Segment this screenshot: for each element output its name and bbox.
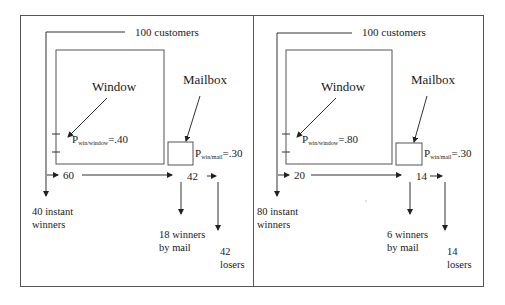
instant-winners-right: 80 instantwinners: [257, 205, 298, 231]
losers-right: 14losers: [447, 245, 472, 271]
customers-label-right: 100 customers: [362, 27, 426, 38]
to-mailbox-count-right: 20: [294, 170, 305, 181]
p-window-left: Pwin/window=.40: [72, 134, 128, 146]
window-label-right: Window: [321, 80, 365, 93]
window-label-left: Window: [92, 80, 136, 93]
p-window-right: Pwin/window=.80: [302, 134, 358, 146]
losers-left: 42losers: [220, 245, 245, 271]
mailbox-label-right: Mailbox: [411, 73, 455, 86]
instant-winners-left: 40 instantwinners: [32, 205, 73, 231]
mail-winners-left: 18 winnersby mail: [159, 228, 205, 254]
customers-label-left: 100 customers: [135, 27, 199, 38]
mailbox-label-left: Mailbox: [183, 73, 227, 86]
to-mailbox-count-left: 60: [63, 170, 74, 181]
mail-winners-right: 6 winnersby mail: [387, 228, 428, 254]
after-mailbox-count-left: 42: [187, 171, 198, 182]
p-mail-left: Pwin/mail=.30: [195, 148, 242, 160]
p-mail-right: Pwin/mail=.30: [424, 148, 471, 160]
after-mailbox-count-right: 14: [416, 171, 427, 182]
